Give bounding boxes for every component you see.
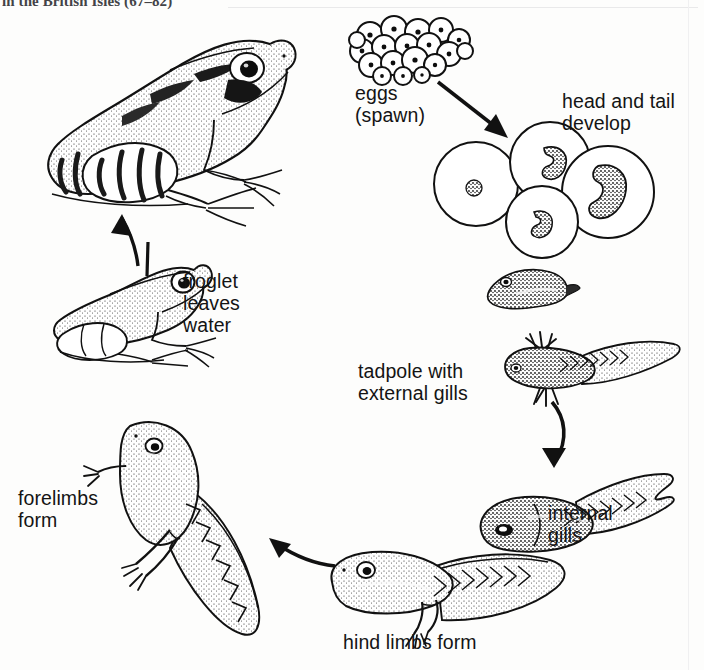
label-head-and-tail-develop: head and tail develop	[562, 90, 675, 134]
label-froglet-leaves-water: froglet leaves water	[183, 270, 240, 336]
label-eggs-spawn: eggs (spawn)	[355, 82, 425, 126]
figure-egg-cluster	[349, 18, 473, 84]
figure-forelimbs-form	[78, 408, 278, 658]
figure-hatchling	[470, 258, 580, 316]
diagram-page: in the British Isles (67–82)	[0, 0, 704, 670]
label-forelimbs-form: forelimbs form	[18, 487, 98, 531]
label-tadpole-with-external-gills: tadpole with external gills	[358, 360, 468, 404]
figure-adult-frog	[18, 8, 328, 238]
figure-developing-eggs	[432, 118, 672, 250]
label-hind-limbs-form: hind limbs form	[343, 631, 477, 653]
